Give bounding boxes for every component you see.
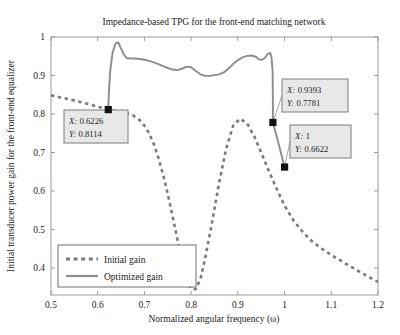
x-tick-label: 0.7 xyxy=(138,300,150,310)
x-tick-label: 1.1 xyxy=(325,300,337,310)
datatip-marker xyxy=(269,119,276,126)
datatip-y-value: Y:0.6622 xyxy=(295,144,328,154)
x-axis-label: Normalized angular frequency (ω) xyxy=(148,314,279,325)
y-tick-label: 0.6 xyxy=(33,186,45,196)
datatip-y-value: Y:0.7781 xyxy=(287,98,320,108)
x-tick-label: 0.9 xyxy=(232,300,244,310)
legend-label-initial-gain: Initial gain xyxy=(104,255,146,265)
datatips-group: X:0.6226Y:0.8114X:0.9393Y:0.7781X:1Y:0.6… xyxy=(64,79,351,171)
datatip-x-value: X:0.9393 xyxy=(286,85,321,95)
datatip-optimized-knee[interactable]: X:0.9393Y:0.7781 xyxy=(269,79,348,126)
datatip-y-value: Y:0.8114 xyxy=(69,129,103,139)
datatip-leader xyxy=(273,96,282,123)
x-tick-label: 0.5 xyxy=(45,300,57,310)
y-axis-label: Initial transducer power gain for the fr… xyxy=(6,59,16,272)
datatip-marker xyxy=(105,106,112,113)
chart-title: Impedance-based TPG for the front-end ma… xyxy=(103,17,326,27)
x-tick-label: 1.2 xyxy=(372,300,384,310)
datatip-x-value: X:1 xyxy=(294,131,310,141)
chart-canvas: Impedance-based TPG for the front-end ma… xyxy=(0,0,400,335)
y-tick-label: 0.5 xyxy=(33,225,45,235)
datatip-initial-gain[interactable]: X:0.6226Y:0.8114 xyxy=(64,106,128,143)
x-tick-label: 0.8 xyxy=(185,300,197,310)
series-optimized-gain xyxy=(108,42,273,122)
x-tick-label: 0.6 xyxy=(92,300,104,310)
datatip-marker xyxy=(281,163,288,170)
datatip-leader xyxy=(285,142,290,168)
y-tick-label: 0.9 xyxy=(33,71,45,81)
legend-label-optimized-gain: Optimized gain xyxy=(104,272,163,282)
y-tick-label: 0.7 xyxy=(33,148,45,158)
y-tick-label: 0.4 xyxy=(33,263,45,273)
legend-group: Initial gainOptimized gain xyxy=(58,245,196,287)
y-tick-label: 1 xyxy=(40,32,45,42)
series-optimized-gain-tail xyxy=(273,122,285,167)
plot-title-group: Impedance-based TPG for the front-end ma… xyxy=(103,17,326,27)
datatip-optimized-end[interactable]: X:1Y:0.6622 xyxy=(281,125,351,171)
chart-figure: Impedance-based TPG for the front-end ma… xyxy=(0,0,400,335)
datatip-x-value: X:0.6226 xyxy=(68,116,104,126)
x-tick-label: 1 xyxy=(282,300,287,310)
y-tick-label: 0.8 xyxy=(33,109,45,119)
